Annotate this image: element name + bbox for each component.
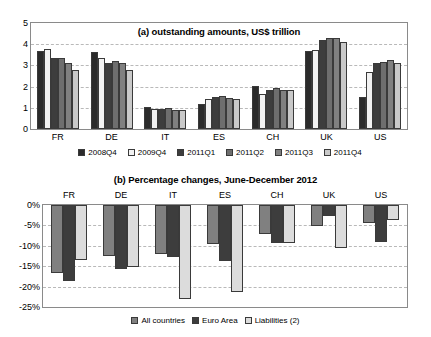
- bar-group-us: [353, 23, 407, 129]
- bar: [375, 205, 387, 242]
- bar: [363, 205, 375, 223]
- bar-group-ch: [251, 205, 303, 307]
- panel-b-legend: All countriesEuro AreaLiabilities (2): [0, 316, 431, 325]
- panel-b-y-axis: 0%-5%-10%-15%-20%-25%: [0, 204, 40, 308]
- bar: [233, 99, 240, 129]
- chart-panel-b: (b) Percentage changes, June-December 20…: [0, 172, 431, 337]
- bar-group-de: [95, 205, 147, 307]
- bar: [259, 94, 266, 129]
- legend-swatch-icon: [131, 317, 138, 324]
- bar: [226, 98, 233, 129]
- x-tick-label: IT: [147, 190, 199, 200]
- bar-group-es: [199, 205, 251, 307]
- bar: [287, 90, 294, 129]
- y-tick-label: -5%: [2, 220, 40, 230]
- y-tick-label: 2: [2, 82, 28, 92]
- bar-group-fr: [31, 23, 85, 129]
- x-tick-label: CH: [251, 190, 303, 200]
- bar-group-it: [147, 205, 199, 307]
- chart-panel-a: 012345 (a) outstanding amounts, US$ tril…: [0, 8, 431, 168]
- bar: [259, 205, 271, 234]
- bar: [127, 205, 139, 267]
- y-tick-label: -25%: [2, 302, 40, 312]
- legend-swatch-icon: [192, 317, 199, 324]
- bar: [340, 42, 347, 129]
- bar: [387, 60, 394, 129]
- legend-item: 2011Q2: [226, 148, 264, 157]
- bar: [326, 38, 333, 129]
- x-tick-label: DE: [85, 132, 139, 142]
- y-tick-label: 0: [2, 124, 28, 134]
- bar: [103, 205, 115, 256]
- x-tick-label: US: [353, 132, 407, 142]
- x-tick-label: US: [355, 190, 407, 200]
- bar: [305, 51, 312, 129]
- bar-group-ch: [246, 23, 300, 129]
- x-tick-label: IT: [138, 132, 192, 142]
- bar: [212, 97, 219, 129]
- bar: [219, 205, 231, 261]
- panel-b-bars: [43, 205, 407, 307]
- bar: [151, 109, 158, 129]
- legend-label: 2011Q4: [334, 148, 362, 157]
- bar-group-uk: [303, 205, 355, 307]
- bar: [144, 107, 151, 129]
- panel-b-title: (b) Percentage changes, June-December 20…: [0, 174, 431, 185]
- bar: [115, 205, 127, 269]
- bar: [58, 58, 65, 129]
- legend-item: 2011Q4: [324, 148, 362, 157]
- bar: [387, 205, 399, 220]
- legend-swatch-icon: [177, 149, 184, 156]
- legend-item: 2008Q4: [78, 148, 116, 157]
- x-tick-label: FR: [43, 190, 95, 200]
- bar-group-uk: [300, 23, 354, 129]
- bar: [98, 58, 105, 129]
- bar: [179, 205, 191, 299]
- legend-item: 2009Q4: [128, 148, 166, 157]
- bar: [319, 40, 326, 129]
- bar-group-es: [192, 23, 246, 129]
- legend-swatch-icon: [275, 149, 282, 156]
- panel-b-x-tick-labels: FRDEITESCHUKUS: [43, 190, 407, 200]
- bar-group-it: [138, 23, 192, 129]
- bar-group-us: [355, 205, 407, 307]
- legend-swatch-icon: [226, 149, 233, 156]
- bar: [359, 97, 366, 129]
- x-tick-label: UK: [303, 190, 355, 200]
- y-tick-label: 5: [2, 18, 28, 28]
- bar: [311, 205, 323, 226]
- panel-a-x-tick-labels: FRDEITESCHUKUS: [31, 132, 407, 142]
- bar: [167, 205, 179, 257]
- bar: [172, 110, 179, 129]
- panel-a-bars: [31, 23, 407, 129]
- panel-a-y-axis: 012345: [0, 22, 28, 130]
- legend-swatch-icon: [245, 317, 252, 324]
- bar-group-fr: [43, 205, 95, 307]
- legend-item: 2011Q1: [177, 148, 215, 157]
- y-tick-label: 1: [2, 103, 28, 113]
- legend-label: Euro Area: [202, 316, 238, 325]
- x-tick-label: ES: [199, 190, 251, 200]
- x-tick-label: CH: [246, 132, 300, 142]
- bar: [283, 205, 295, 243]
- legend-label: 2009Q4: [138, 148, 166, 157]
- bar: [112, 61, 119, 129]
- bar: [198, 104, 205, 129]
- chart-page: 012345 (a) outstanding amounts, US$ tril…: [0, 0, 431, 337]
- legend-item: Liabilities (2): [245, 316, 300, 325]
- bar: [333, 38, 340, 129]
- bar: [231, 205, 243, 292]
- bar: [323, 205, 335, 216]
- bar: [65, 63, 72, 129]
- legend-label: 2011Q2: [236, 148, 264, 157]
- bar: [105, 63, 112, 129]
- x-tick-label: FR: [31, 132, 85, 142]
- bar: [219, 96, 226, 129]
- bar: [179, 110, 186, 129]
- bar: [158, 109, 165, 129]
- x-tick-label: ES: [192, 132, 246, 142]
- y-tick-label: -20%: [2, 282, 40, 292]
- bar: [207, 205, 219, 244]
- legend-swatch-icon: [324, 149, 331, 156]
- bar: [366, 72, 373, 129]
